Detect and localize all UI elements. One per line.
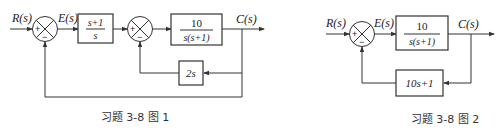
feedback-block: 10s+1 xyxy=(396,70,443,96)
outer-feedback-path xyxy=(45,42,242,97)
feedback-block-label: 2s xyxy=(186,67,196,79)
block1-denominator: s xyxy=(94,30,98,41)
forward-block: 10 s(s+1) xyxy=(396,16,448,50)
error-label-e: E(s) xyxy=(373,16,394,30)
plus-sign: + xyxy=(352,29,357,39)
block1-numerator: s+1 xyxy=(88,17,104,28)
block2-numerator: 10 xyxy=(191,17,203,29)
block2-denominator: s(s+1) xyxy=(183,32,210,44)
output-label-c: C(s) xyxy=(458,17,479,31)
plant-block: 10 s(s+1) xyxy=(171,14,222,45)
feedback-path xyxy=(362,47,396,83)
derivative-feedback-block: 2s xyxy=(179,61,203,85)
summing-junction-1: + − xyxy=(33,17,58,43)
minus-sign: − xyxy=(137,32,142,42)
block-diagrams: R(s) + − E(s) s+1 s + − xyxy=(0,0,498,130)
input-label-r: R(s) xyxy=(325,16,346,30)
figure-2: R(s) + − E(s) 10 s(s+1) C(s) 10s+1 习题 3-… xyxy=(325,16,494,126)
forward-numerator: 10 xyxy=(417,20,429,32)
feedback-block-label: 10s+1 xyxy=(405,77,433,89)
summing-junction: + − xyxy=(350,22,375,48)
plus-sign: + xyxy=(130,24,135,34)
inner-feedback-path xyxy=(140,42,179,73)
figure-2-caption: 习题 3-8 图 2 xyxy=(411,113,479,126)
summing-junction-2: + − xyxy=(128,17,153,43)
controller-block: s+1 s xyxy=(78,14,113,43)
minus-sign: − xyxy=(42,32,47,42)
plus-sign: + xyxy=(35,24,40,34)
figure-1-caption: 习题 3-8 图 1 xyxy=(101,111,169,124)
figure-1: R(s) + − E(s) s+1 s + − xyxy=(10,11,264,124)
forward-denominator: s(s+1) xyxy=(409,36,436,48)
input-label-r: R(s) xyxy=(11,11,32,25)
minus-sign: − xyxy=(359,37,364,47)
output-label-c: C(s) xyxy=(236,12,257,26)
error-label-e: E(s) xyxy=(57,11,78,25)
